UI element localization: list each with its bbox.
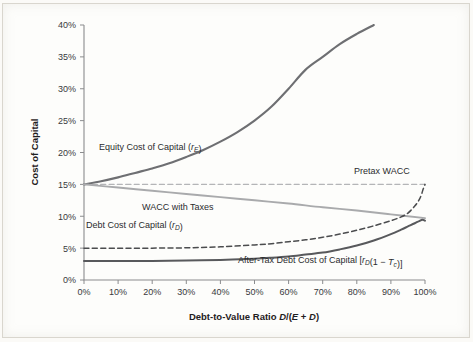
x-tick-marks	[84, 280, 425, 284]
x-axis-title: Debt-to-Value Ratio D/(E + D)	[189, 311, 319, 322]
series-line-equity-cost-of-capital	[84, 25, 374, 184]
x-tick-label: 0%	[77, 287, 90, 297]
x-tick-label: 10%	[109, 287, 127, 297]
x-tick-labels: 0%10%20%30%40%50%60%70%80%90%100%	[77, 287, 436, 297]
y-tick-label: 25%	[58, 116, 76, 126]
y-axis-title: Cost of Capital	[29, 118, 40, 185]
y-tick-label: 0%	[63, 275, 76, 285]
x-tick-label: 20%	[143, 287, 161, 297]
x-tick-label: 30%	[177, 287, 195, 297]
figure-page: 0%5%10%15%20%25%30%35%40% 0%10%20%30%40%…	[0, 0, 473, 342]
series-line-debt-cost-of-capital	[84, 184, 425, 248]
series-label-pretax-wacc: Pretax WACC	[354, 166, 410, 176]
x-tick-label: 40%	[211, 287, 229, 297]
y-tick-label: 30%	[58, 84, 76, 94]
x-tick-label: 60%	[280, 287, 298, 297]
x-tick-label: 100%	[413, 287, 436, 297]
cost-of-capital-chart: 0%5%10%15%20%25%30%35%40% 0%10%20%30%40%…	[0, 0, 473, 342]
x-tick-label: 50%	[245, 287, 263, 297]
series-label-wacc-with-taxes: WACC with Taxes	[142, 202, 214, 212]
series-label-debt: Debt Cost of Capital (rD)	[86, 220, 183, 232]
x-tick-label: 80%	[348, 287, 366, 297]
y-tick-label: 15%	[58, 180, 76, 190]
y-tick-labels: 0%5%10%15%20%25%30%35%40%	[58, 20, 76, 285]
y-tick-label: 35%	[58, 52, 76, 62]
series-label-after-tax-debt: After-Tax Debt Cost of Capital [rD(1 − T…	[238, 255, 402, 269]
y-tick-label: 40%	[58, 20, 76, 30]
y-tick-label: 5%	[63, 244, 76, 254]
y-tick-label: 10%	[58, 212, 76, 222]
y-tick-label: 20%	[58, 148, 76, 158]
series-label-equity: Equity Cost of Capital (rE)	[99, 142, 201, 154]
axis-lines	[84, 25, 425, 280]
series-line-wacc-with-taxes	[84, 184, 425, 218]
y-tick-marks	[80, 25, 84, 280]
x-tick-label: 90%	[382, 287, 400, 297]
x-tick-label: 70%	[314, 287, 332, 297]
